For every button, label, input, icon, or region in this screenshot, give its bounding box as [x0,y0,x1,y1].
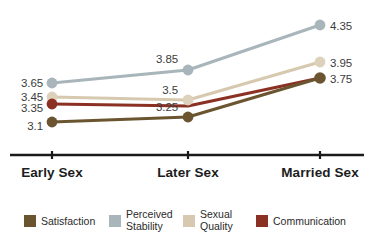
chart-canvas: 3.65 3.45 3.35 3.1 3.85 3.5 3.25 4.35 3.… [0,0,374,250]
value-label-quality-married: 3.95 [330,57,352,69]
data-point-satisfaction-early[interactable] [47,117,58,128]
legend-label-sexual-quality-line1: Sexual [200,208,232,220]
legend-swatch-communication[interactable] [256,215,268,227]
line-chart: 3.65 3.45 3.35 3.1 3.85 3.5 3.25 4.35 3.… [0,0,374,250]
legend-swatch-sexual-quality[interactable] [183,215,195,227]
x-axis-label-married-sex: Married Sex [281,165,359,180]
data-point-satisfaction-later[interactable] [183,112,194,123]
data-point-perceived-stability-married[interactable] [315,20,326,31]
value-label-stability-early: 3.65 [21,77,43,89]
legend-label-perceived-stability-line2: Stability [126,220,164,232]
data-point-perceived-stability-later[interactable] [183,65,194,76]
legend-label-satisfaction: Satisfaction [41,215,95,227]
value-label-communication-early: 3.35 [21,102,43,114]
x-axis-label-early-sex: Early Sex [21,165,83,180]
legend-label-perceived-stability-line1: Perceived [126,208,173,220]
x-axis-label-later-sex: Later Sex [157,165,219,180]
value-label-satisfaction-later: 3.25 [156,101,178,113]
data-point-sexual-quality-later[interactable] [183,95,194,106]
value-label-satisfaction-married: 3.75 [330,73,352,85]
data-point-perceived-stability-early[interactable] [47,78,58,89]
value-label-stability-later: 3.85 [156,53,178,65]
legend-swatch-satisfaction[interactable] [24,215,36,227]
data-point-sexual-quality-married[interactable] [315,57,326,68]
value-label-satisfaction-early: 3.1 [27,120,43,132]
value-label-stability-married: 4.35 [330,20,352,32]
legend-label-sexual-quality-line2: Quality [200,220,233,232]
legend-swatch-perceived-stability[interactable] [109,215,121,227]
data-point-satisfaction-married[interactable] [314,72,326,84]
data-point-communication-early[interactable] [47,99,58,110]
legend-label-communication: Communication [273,215,346,227]
value-label-quality-later: 3.5 [162,84,178,96]
